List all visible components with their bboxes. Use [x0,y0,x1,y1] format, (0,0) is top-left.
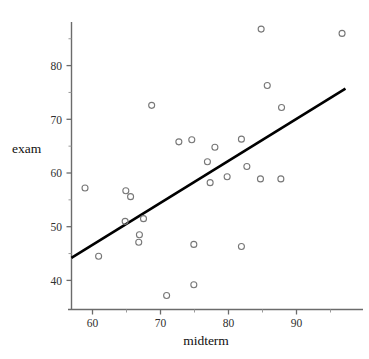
data-point [128,194,134,200]
data-point [278,176,284,182]
data-point [212,144,218,150]
data-point [258,26,264,32]
data-point [204,159,210,165]
exam-tick-label: 80 [51,60,63,72]
data-point [191,241,197,247]
data-point [82,185,88,191]
data-point [264,82,270,88]
midterm-tick-label: 60 [87,317,99,329]
data-point [136,239,142,245]
exam-axis-title: exam [12,141,42,156]
data-point [238,136,244,142]
exam-tick-label: 50 [51,221,63,233]
data-point [123,188,129,194]
data-point [339,30,345,36]
data-point [224,174,230,180]
exam-axis-tick-labels: 4050607080 [51,60,63,287]
midterm-tick-label: 90 [291,317,303,329]
data-point [164,292,170,298]
midterm-tick-label: 70 [155,317,167,329]
data-point-group [82,26,345,298]
data-point [136,232,142,238]
exam-tick-label: 70 [51,114,63,126]
data-point [207,180,213,186]
data-point [176,139,182,145]
data-point [149,102,155,108]
data-point [279,104,285,110]
exam-tick-label: 40 [51,275,63,287]
data-point [96,253,102,259]
midterm-axis-title: midterm [183,333,229,348]
plot-canvas: 4050607080 60708090 exam midterm [0,0,369,359]
midterm-axis-tick-labels: 60708090 [87,317,303,329]
data-point [189,137,195,143]
midterm-tick-label: 80 [223,317,235,329]
data-point [244,164,250,170]
data-point [257,176,263,182]
exam-tick-label: 60 [51,167,63,179]
exam-axis-major-ticks [67,66,72,281]
data-point [141,216,147,222]
regression-line [71,89,345,258]
data-point [238,244,244,250]
data-point [191,282,197,288]
scatter-plot-figure: 4050607080 60708090 exam midterm [0,0,369,359]
